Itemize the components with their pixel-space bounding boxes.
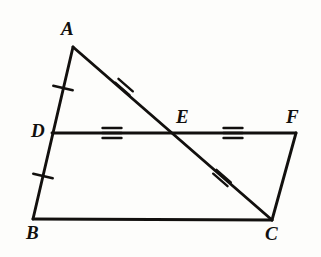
- tick-EF: [224, 128, 243, 138]
- geometry-figure: A D B E F C: [0, 0, 321, 257]
- segment-bc: [33, 219, 272, 220]
- vertex-label-b: B: [26, 223, 39, 242]
- tick-DE: [103, 128, 122, 138]
- segment-fc: [272, 133, 296, 220]
- vertex-label-a: A: [61, 19, 74, 38]
- geometry-canvas: [0, 0, 321, 257]
- vertex-label-f: F: [286, 107, 299, 126]
- vertex-label-d: D: [31, 121, 45, 140]
- vertex-label-c: C: [265, 224, 278, 243]
- tick-stroke: [115, 83, 129, 95]
- tick-stroke: [216, 170, 230, 182]
- vertex-label-e: E: [176, 107, 189, 126]
- segments-group: [33, 47, 296, 220]
